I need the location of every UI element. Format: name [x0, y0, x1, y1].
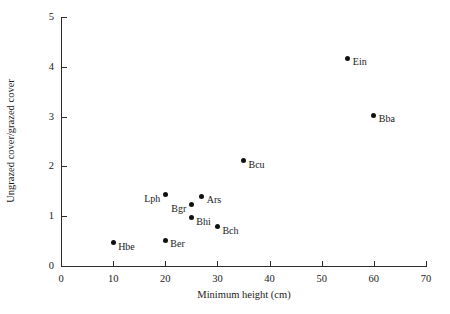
x-tick-mark — [426, 261, 427, 266]
y-tick-label: 1 — [49, 211, 54, 222]
data-point-marker — [189, 215, 194, 220]
data-point-marker — [163, 192, 168, 197]
plot-area: 012345 010203040506070 HbeBerBchBhiBgrAr… — [61, 17, 426, 266]
y-axis-line — [61, 17, 62, 266]
y-tick-mark — [62, 266, 67, 267]
data-point-label: Bcu — [249, 160, 265, 170]
data-point-label: Bhi — [196, 217, 210, 227]
y-tick-mark — [62, 67, 67, 68]
y-tick-mark — [62, 216, 67, 217]
data-point-label: Ber — [170, 239, 184, 249]
x-tick-mark — [270, 261, 271, 266]
x-tick-label: 60 — [369, 274, 380, 285]
x-tick-mark — [322, 261, 323, 266]
x-tick-label: 20 — [160, 274, 171, 285]
x-tick-mark — [61, 261, 62, 266]
y-tick-mark — [62, 166, 67, 167]
x-axis-title: Minimum height (cm) — [197, 290, 290, 301]
data-point-label: Ein — [353, 57, 367, 67]
x-tick-label: 40 — [264, 274, 275, 285]
data-point-label: Lph — [144, 194, 160, 204]
data-point-marker — [189, 202, 194, 207]
data-point-marker — [345, 56, 350, 61]
x-tick-label: 30 — [212, 274, 223, 285]
x-axis-line — [61, 266, 427, 267]
y-tick-label: 4 — [49, 62, 54, 73]
scatter-plot-figure: Ungrazed cover/grazed cover Minimum heig… — [0, 0, 450, 314]
data-point-marker — [241, 158, 246, 163]
y-tick-label: 5 — [49, 12, 54, 23]
y-tick-mark — [62, 17, 67, 18]
data-point-label: Bch — [222, 226, 238, 236]
data-point-label: Bba — [379, 114, 395, 124]
data-point-marker — [163, 238, 168, 243]
y-axis-title: Ungrazed cover/grazed cover — [6, 79, 17, 203]
y-tick-label: 3 — [49, 111, 54, 122]
data-point-marker — [199, 194, 204, 199]
x-tick-label: 10 — [108, 274, 119, 285]
x-tick-label: 70 — [421, 274, 432, 285]
data-point-marker — [111, 240, 116, 245]
y-tick-label: 2 — [49, 161, 54, 172]
x-tick-mark — [374, 261, 375, 266]
x-tick-mark — [113, 261, 114, 266]
data-point-label: Bgr — [171, 204, 186, 214]
data-point-marker — [371, 113, 376, 118]
x-tick-label: 0 — [58, 274, 63, 285]
x-tick-mark — [165, 261, 166, 266]
data-point-marker — [215, 224, 220, 229]
data-point-label: Hbe — [118, 242, 135, 252]
y-tick-label: 0 — [49, 261, 54, 272]
y-tick-mark — [62, 117, 67, 118]
x-tick-mark — [217, 261, 218, 266]
data-point-label: Ars — [207, 195, 221, 205]
x-tick-label: 50 — [316, 274, 327, 285]
